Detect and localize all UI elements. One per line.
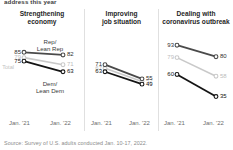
x-tick-left: Jan. '21 [9,119,30,128]
panel-title-line2: job situation [102,18,141,25]
data-point-end [61,70,65,74]
series-line [24,52,63,55]
annotation-dem-line1: Dem/ [43,80,58,87]
data-point-end [61,53,65,57]
value-label-start: 79 [161,54,174,61]
x-axis: Jan. '21 Jan. '22 [0,119,84,128]
value-label-end: 35 [220,93,227,100]
value-label-start: 60 [161,71,174,78]
x-tick-right: Jan. '22 [129,119,150,128]
panel-title: Dealing with coronavirus outbreak [159,10,233,27]
headline-fragment: address this year [4,0,57,6]
series-line [24,61,63,72]
value-label-end: 49 [146,81,153,88]
panel-title-line1: Improving [106,10,138,17]
data-point-start [175,73,179,77]
data-point-start [175,43,179,47]
value-label-end: 63 [67,68,74,75]
panel-title: Improving job situation [85,10,158,27]
value-label-start: 63 [89,68,102,75]
value-label-start: 71 [89,61,102,68]
value-label-start: 93 [161,42,174,49]
data-point-end [214,95,218,99]
annotation-dem-lean-dem: Dem/Lean Dem [26,80,74,94]
annotation-rep-line1: Rep/ [44,38,57,45]
x-tick-left: Jan. '21 [164,119,185,128]
panel-title-line1: Dealing with [177,10,216,17]
x-tick-right: Jan. '22 [203,119,224,128]
data-point-start [103,70,107,74]
panel-dealing-with-coronavirus-outbreak: Dealing with coronavirus outbreak Jan. '… [158,9,233,131]
data-point-end [214,74,218,78]
series-line [105,72,142,84]
series-line [177,45,216,57]
series-line [105,68,142,81]
data-point-start [103,63,107,67]
series-line [177,58,216,77]
x-axis: Jan. '21 Jan. '22 [159,119,233,128]
panel-title: Strengthening economy [0,10,84,27]
annotation-rep-lean-rep: Rep/Lean Rep [26,38,74,52]
data-point-start [175,56,179,60]
value-label-end: 82 [67,51,74,58]
x-tick-right: Jan. '22 [50,119,71,128]
panel-improving-job-situation: Improving job situation Jan. '21 Jan. '2… [84,9,158,131]
data-point-end [61,63,65,67]
series-line [177,74,216,96]
panel-title-line2: coronavirus outbreak [162,18,229,25]
data-point-end [140,77,144,81]
panel-container: Strengthening economy Jan. '21 Jan. '22 … [0,9,233,131]
panel-strengthening-economy: Strengthening economy Jan. '21 Jan. '22 … [0,9,84,131]
value-label-end: 58 [220,73,227,80]
data-point-end [214,55,218,59]
data-point-start [22,59,26,63]
data-point-end [140,82,144,86]
annotation-total: Total [0,64,14,71]
x-axis: Jan. '21 Jan. '22 [85,119,158,128]
x-tick-left: Jan. '21 [91,119,112,128]
annotation-rep-line2: Lean Rep [37,45,63,52]
value-label-end: 71 [67,61,74,68]
series-line [105,65,142,79]
panel-title-line1: Strengthening [20,10,65,17]
chart-root: address this year Strengthening economy … [0,0,233,150]
value-label-end: 80 [220,53,227,60]
value-label-start: 85 [8,49,21,56]
annotation-dem-line2: Lean Dem [36,87,64,94]
panel-title-line2: economy [28,18,57,25]
source-note: Source: Survey of U.S. adults conducted … [4,140,147,146]
